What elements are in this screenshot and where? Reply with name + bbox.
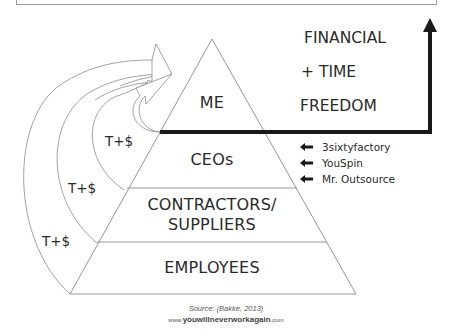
tier-employees-label: EMPLOYEES xyxy=(110,258,314,277)
source-url[interactable]: www.youwillneverworkagain.com xyxy=(0,315,452,324)
company-name: Mr. Outsource xyxy=(322,173,395,185)
freedom-vertical-line xyxy=(428,28,432,134)
tier-contractors-line2: SUPPLIERS xyxy=(120,215,304,235)
company-item: YouSpin xyxy=(300,157,363,169)
flow-label-ceos: T+$ xyxy=(68,180,96,196)
left-arrow-icon xyxy=(300,158,314,168)
url-prefix: www. xyxy=(168,317,182,323)
goal-financial: FINANCIAL xyxy=(304,29,386,47)
goal-freedom: FREEDOM xyxy=(300,97,377,115)
tier-ceos-label: CEOs xyxy=(150,150,274,169)
url-domain: youwillneverworkagain xyxy=(183,315,271,324)
company-item: 3sixtyfactory xyxy=(300,141,391,153)
tier-me-label: ME xyxy=(170,93,254,112)
up-arrow-icon xyxy=(423,18,437,32)
company-name: 3sixtyfactory xyxy=(322,141,391,153)
goal-time: + TIME xyxy=(301,63,356,81)
source-citation: Source: (Bakke, 2013) xyxy=(0,304,452,313)
tier-contractors-label: CONTRACTORS/ SUPPLIERS xyxy=(120,195,304,235)
left-arrow-icon xyxy=(300,174,314,184)
left-arrow-icon xyxy=(300,142,314,152)
url-suffix: .com xyxy=(271,317,284,323)
flow-label-contractors: T+$ xyxy=(42,233,70,249)
flow-label-me: T+$ xyxy=(105,133,133,149)
freedom-baseline xyxy=(160,130,432,134)
company-item: Mr. Outsource xyxy=(300,173,395,185)
company-name: YouSpin xyxy=(322,157,363,169)
tier-contractors-line1: CONTRACTORS/ xyxy=(120,195,304,215)
